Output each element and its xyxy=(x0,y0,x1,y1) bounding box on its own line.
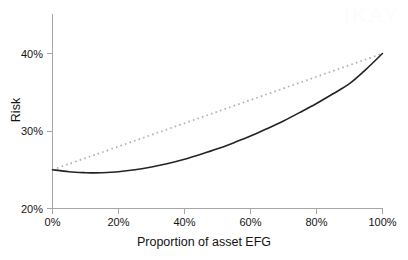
y-axis-ticks xyxy=(47,54,53,209)
x-tick-label-60: 60% xyxy=(239,216,261,228)
x-axis-title: Proportion of asset EFG xyxy=(137,235,271,249)
x-tick-label-0: 0% xyxy=(45,216,61,228)
chart-canvas: 40% 30% 20% 0% 20% 40% 60% 80% 100% Prop… xyxy=(0,0,408,260)
x-axis-ticks xyxy=(53,209,383,215)
y-axis-title: Risk xyxy=(9,97,23,122)
y-tick-label-40: 40% xyxy=(21,48,43,60)
series-line-portfolio-risk xyxy=(53,54,383,173)
risk-diversification-chart: IKAY 40% 30% 20% 0% 20% 40% 60% 80% xyxy=(0,0,408,260)
series-line-weighted-average xyxy=(53,54,383,170)
x-tick-label-80: 80% xyxy=(305,216,327,228)
y-tick-label-30: 30% xyxy=(21,125,43,137)
x-tick-label-40: 40% xyxy=(173,216,195,228)
x-tick-label-20: 20% xyxy=(107,216,129,228)
y-tick-label-20: 20% xyxy=(21,203,43,215)
x-tick-label-100: 100% xyxy=(368,216,396,228)
